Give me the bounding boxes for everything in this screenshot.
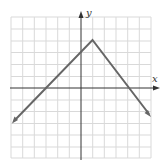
y-axis: [79, 11, 84, 160]
y-axis-label: y: [85, 7, 92, 18]
x-axis: [10, 86, 160, 91]
coordinate-graph: x y: [0, 0, 164, 163]
x-axis-arrow-icon: [153, 86, 160, 91]
x-axis-label: x: [152, 73, 158, 84]
y-axis-arrow-icon: [79, 11, 84, 18]
